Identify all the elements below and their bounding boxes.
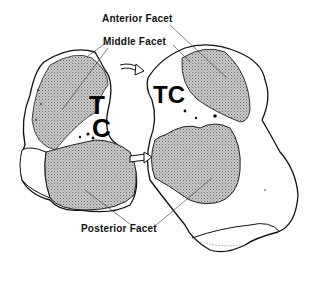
right-bone-label: TC: [153, 83, 185, 107]
left-posterior-facet: [45, 140, 137, 210]
curved-arrow-top-icon: [120, 64, 144, 75]
left-bone-letter-c: C: [92, 115, 111, 141]
anterior-facet-label: Anterior Facet: [102, 13, 173, 24]
right-bone: [147, 45, 298, 252]
left-bone: [20, 50, 137, 212]
posterior-facet-label: Posterior Facet: [81, 223, 157, 234]
middle-facet-label: Middle Facet: [103, 36, 166, 47]
